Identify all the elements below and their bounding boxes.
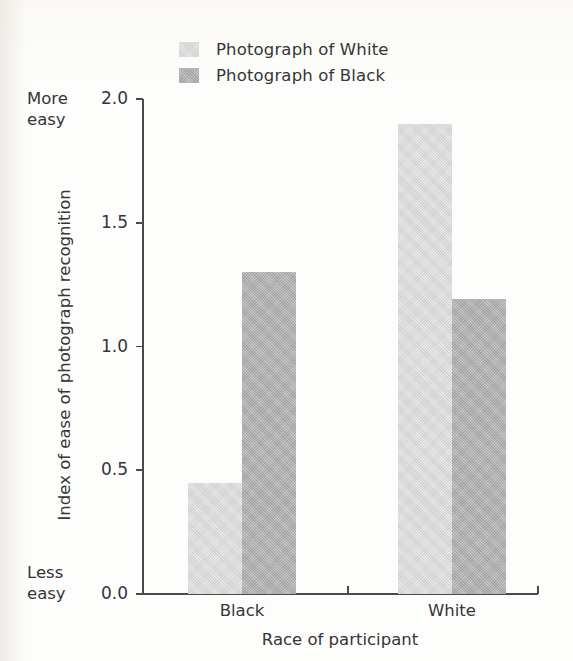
y-tick-label: 1.0 <box>82 336 128 356</box>
bar-black-black-photo <box>242 272 296 594</box>
y-axis-anchor-low: Less easy <box>27 562 66 604</box>
y-tick-label: 2.0 <box>82 88 128 108</box>
y-axis-anchor-low-line2: easy <box>27 583 66 604</box>
x-tick-mark <box>537 586 539 594</box>
x-tick-label-black: Black <box>172 601 312 620</box>
y-tick-mark <box>136 469 143 471</box>
y-tick-label: 0.0 <box>82 583 128 603</box>
y-axis-anchor-high-line1: More <box>27 88 68 109</box>
x-tick-label-white: White <box>382 601 522 620</box>
y-tick-label: 0.5 <box>82 459 128 479</box>
y-axis-title: Index of ease of photograph recognition <box>55 191 74 521</box>
y-axis-anchor-low-line1: Less <box>27 562 66 583</box>
bar-white-white-photo <box>398 124 452 594</box>
y-tick-mark <box>136 346 143 348</box>
y-tick-label: 1.5 <box>82 212 128 232</box>
chart-legend: Photograph of White Photograph of Black <box>179 36 389 88</box>
y-axis-anchor-high: More easy <box>27 88 68 130</box>
legend-swatch-black-photo <box>179 68 199 83</box>
x-tick-mark <box>347 586 349 594</box>
legend-label-black-photo: Photograph of Black <box>216 66 385 85</box>
legend-item-photograph-of-black: Photograph of Black <box>179 62 389 88</box>
legend-item-photograph-of-white: Photograph of White <box>179 36 389 62</box>
bar-white-black-photo <box>452 299 506 594</box>
legend-label-white-photo: Photograph of White <box>216 40 389 59</box>
y-tick-mark <box>136 98 143 100</box>
bar-chart-figure: Photograph of White Photograph of Black … <box>0 0 573 661</box>
y-tick-mark <box>136 222 143 224</box>
bar-black-white-photo <box>188 483 242 594</box>
legend-swatch-white-photo <box>179 42 199 57</box>
x-tick-mark <box>142 586 144 594</box>
y-axis-anchor-high-line2: easy <box>27 109 68 130</box>
x-axis-title: Race of participant <box>142 630 538 649</box>
